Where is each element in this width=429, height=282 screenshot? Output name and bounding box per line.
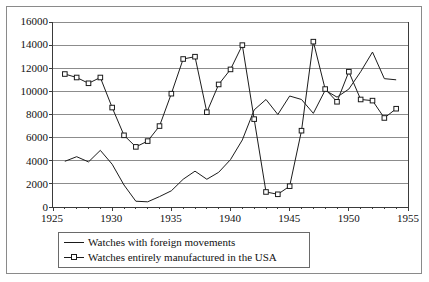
- data-point-marker: [311, 39, 316, 44]
- x-tick-label: 1930: [100, 212, 122, 224]
- data-point-marker: [240, 43, 245, 48]
- y-tick-label: 16000: [21, 16, 49, 27]
- data-point-marker: [358, 97, 363, 102]
- data-point-marker: [193, 54, 198, 59]
- legend-item-label: Watches entirely manufactured in the USA: [88, 251, 277, 264]
- data-point-marker: [347, 69, 352, 74]
- data-point-marker: [323, 87, 328, 92]
- x-tick-label: 1955: [397, 212, 419, 224]
- chart-legend: Watches with foreign movements Watches e…: [58, 232, 310, 268]
- y-axis-tick-labels: 1600014000120001000080006000400020000: [0, 22, 48, 208]
- data-point-marker: [335, 99, 340, 104]
- x-tick-label: 1935: [160, 212, 182, 224]
- x-tick-label: 1940: [219, 212, 241, 224]
- data-point-marker: [276, 192, 281, 197]
- y-tick-label: 2000: [26, 179, 48, 190]
- series-line-0: [65, 52, 396, 202]
- x-tick-label: 1945: [278, 212, 300, 224]
- data-point-marker: [86, 81, 91, 86]
- data-point-marker: [205, 110, 210, 115]
- chart-figure: 1600014000120001000080006000400020000 19…: [0, 0, 429, 282]
- data-point-marker: [169, 91, 174, 96]
- data-point-marker: [370, 98, 375, 103]
- x-tick-label: 1925: [41, 212, 63, 224]
- data-point-marker: [287, 184, 292, 189]
- data-point-marker: [74, 75, 79, 80]
- series-line-1: [65, 42, 396, 195]
- x-axis-tick-labels: 1925193019351940194519501955: [52, 212, 408, 228]
- x-tick-label: 1950: [338, 212, 360, 224]
- data-point-marker: [145, 139, 150, 144]
- data-point-marker: [299, 128, 304, 133]
- data-point-marker: [264, 190, 269, 195]
- data-point-marker: [134, 145, 139, 150]
- data-point-marker: [110, 105, 115, 110]
- data-point-marker: [228, 67, 233, 72]
- plot-area: [52, 22, 408, 208]
- y-tick-label: 12000: [21, 63, 49, 74]
- y-tick-label: 6000: [26, 132, 48, 143]
- legend-item-label: Watches with foreign movements: [88, 236, 235, 249]
- legend-item-usa-manufactured: Watches entirely manufactured in the USA: [63, 250, 305, 265]
- data-point-marker: [394, 106, 399, 111]
- y-tick-label: 4000: [26, 156, 48, 167]
- data-point-marker: [382, 116, 387, 121]
- legend-square-marker-swatch-icon: [63, 252, 85, 264]
- y-tick-label: 14000: [21, 39, 49, 50]
- y-tick-label: 8000: [26, 109, 48, 120]
- data-point-marker: [122, 133, 127, 138]
- data-series-layer: [53, 22, 408, 207]
- data-point-marker: [181, 57, 186, 62]
- data-point-marker: [252, 117, 257, 122]
- legend-line-swatch-icon: [63, 237, 85, 249]
- data-point-marker: [63, 72, 68, 77]
- data-point-marker: [98, 75, 103, 80]
- y-tick-label: 10000: [21, 86, 49, 97]
- data-point-marker: [157, 124, 162, 129]
- legend-item-foreign-movements: Watches with foreign movements: [63, 235, 305, 250]
- data-point-marker: [216, 82, 221, 87]
